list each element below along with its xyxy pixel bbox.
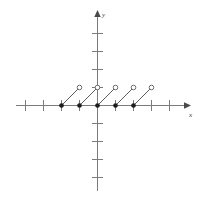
- segment-3: [98, 88, 116, 106]
- open-point-5: [149, 85, 154, 90]
- segment-2: [80, 88, 98, 106]
- segment-1: [62, 88, 80, 106]
- graph-canvas: y x: [0, 0, 211, 200]
- coordinate-plane-svg: y x: [0, 0, 211, 200]
- open-endpoints: [77, 85, 154, 90]
- closed-point-4: [113, 103, 117, 107]
- open-point-3: [113, 85, 118, 90]
- open-point-4: [131, 85, 136, 90]
- x-axis-label: x: [188, 111, 193, 119]
- closed-point-3: [95, 103, 99, 107]
- y-axis-label: y: [101, 11, 106, 19]
- segment-4: [116, 88, 134, 106]
- segment-5: [134, 88, 152, 106]
- y-axis-arrow-icon: [94, 10, 100, 17]
- function-segments: [62, 88, 152, 106]
- open-point-2: [95, 85, 100, 90]
- open-point-1: [77, 85, 82, 90]
- closed-point-1: [59, 103, 63, 107]
- closed-point-5: [131, 103, 135, 107]
- x-axis-arrow-icon: [184, 102, 191, 108]
- closed-point-2: [77, 103, 81, 107]
